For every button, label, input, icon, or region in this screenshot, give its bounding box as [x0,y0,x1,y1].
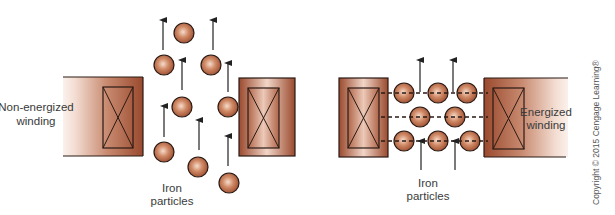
non-energized-coil [239,78,295,156]
energized-coil [339,78,388,157]
left-iron-particles-label-1: Iron [162,182,182,194]
right-iron-particles-label-1: Iron [418,177,438,189]
energized-panel: Energized winding Iron particles [339,60,572,202]
iron-particle [154,142,174,162]
electromagnet-diagram: Non-energized winding Iron particles [0,0,615,215]
non-energized-winding-block [63,77,143,156]
copyright-notice: Copyright © 2015 Cengage Learning® [591,59,601,205]
iron-particle [460,131,480,151]
right-iron-particles-label-2: particles [407,190,450,202]
energized-winding-label-2: winding [526,119,566,131]
non-energized-panel: Non-energized winding Iron particles [0,20,295,207]
iron-particle [188,157,208,177]
iron-particle [201,55,221,75]
iron-particle [154,55,174,75]
energized-winding-label-1: Energized [520,106,572,118]
non-energized-winding-label-1: Non-energized [0,101,74,113]
iron-particle [172,97,192,117]
non-energized-winding-label-2: winding [16,115,56,127]
iron-particle [218,97,238,117]
iron-particle [219,173,239,193]
coil-cross-icon [248,88,279,148]
left-iron-particles-label-2: particles [151,195,194,207]
iron-particle [174,23,194,43]
falling-direction-arrows [163,20,228,166]
scattered-iron-particles [154,23,239,193]
coil-cross-icon [348,88,379,148]
